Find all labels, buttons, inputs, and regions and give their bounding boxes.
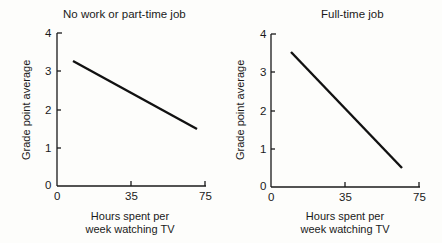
y-tick: 3 (260, 66, 266, 78)
x-axis-label: Hours spent per week watching TV (70, 210, 190, 236)
x-axis-label-line1: Hours spent per (70, 210, 190, 223)
x-axis-label: Hours spent per week watching TV (285, 210, 405, 236)
y-tick: 0 (260, 180, 266, 192)
x-axis-label-line2: week watching TV (285, 223, 405, 236)
y-tick: 0 (45, 179, 51, 191)
chart-title: Full-time job (321, 8, 384, 20)
y-axis-label: Grade point average (20, 60, 32, 160)
chart-panel-no-work: No work or part-time job Grade point ave… (0, 0, 221, 243)
gpa-line-full-time (291, 52, 402, 168)
x-axis-label-line2: week watching TV (70, 223, 190, 236)
y-tick: 1 (260, 143, 266, 155)
x-tick: 35 (339, 191, 352, 203)
chart-panel-full-time: Full-time job Grade point average 4 3 2 … (221, 0, 442, 243)
y-tick: 2 (260, 105, 266, 117)
x-axis-label-line1: Hours spent per (285, 210, 405, 223)
x-tick: 75 (413, 191, 426, 203)
y-tick: 1 (45, 142, 51, 154)
x-tick: 35 (125, 190, 138, 202)
gpa-line-no-work (73, 61, 197, 129)
y-axis-label: Grade point average (234, 60, 246, 160)
y-tick: 3 (45, 65, 51, 77)
y-tick: 4 (45, 27, 51, 39)
chart-axes-right (221, 0, 442, 243)
x-tick: 0 (268, 191, 274, 203)
chart-title: No work or part-time job (63, 8, 186, 20)
x-tick: 0 (54, 190, 60, 202)
y-tick: 2 (45, 104, 51, 116)
chart-axes-left (0, 0, 221, 243)
y-tick: 4 (260, 28, 266, 40)
x-tick: 75 (199, 190, 212, 202)
